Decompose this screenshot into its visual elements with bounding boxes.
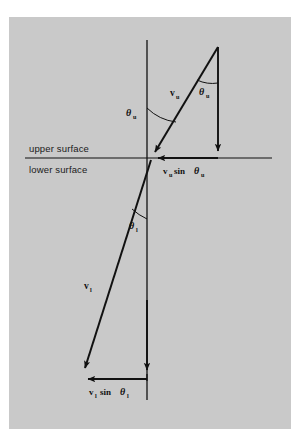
theta-lower-label: θ l bbox=[129, 220, 138, 233]
svg-text:θ: θ bbox=[194, 165, 200, 176]
svg-text:θ: θ bbox=[126, 107, 132, 118]
theta-upper-apex-arc bbox=[197, 80, 218, 83]
svg-text:v: v bbox=[170, 88, 175, 98]
svg-text:l: l bbox=[95, 392, 97, 399]
svg-text:l: l bbox=[90, 286, 92, 293]
svg-text:l: l bbox=[127, 392, 129, 399]
v-upper-label: v u bbox=[170, 88, 180, 100]
theta-upper-apex-label: θ u bbox=[199, 86, 210, 99]
svg-text:v: v bbox=[84, 281, 89, 291]
svg-text:θ: θ bbox=[199, 86, 205, 97]
svg-text:u: u bbox=[133, 113, 137, 120]
svg-text:v: v bbox=[89, 387, 94, 397]
svg-text:u: u bbox=[169, 171, 173, 178]
lower-component-label: v l sin θ l bbox=[89, 386, 129, 399]
vector-diagram: upper surface lower surface v u θ u θ u … bbox=[0, 0, 301, 442]
svg-text:l: l bbox=[136, 226, 138, 233]
theta-upper-origin-arc bbox=[147, 108, 176, 122]
svg-text:u: u bbox=[201, 171, 205, 178]
figure-root: upper surface lower surface v u θ u θ u … bbox=[0, 0, 301, 442]
v-lower-label: v l bbox=[84, 281, 92, 293]
upper-surface-label: upper surface bbox=[29, 143, 89, 154]
upper-component-label: v u sin θ u bbox=[163, 165, 205, 178]
svg-text:θ: θ bbox=[129, 220, 135, 231]
lower-surface-label: lower surface bbox=[29, 164, 87, 175]
svg-text:u: u bbox=[206, 92, 210, 99]
lower-velocity-vector bbox=[85, 160, 151, 368]
upper-velocity-vector bbox=[155, 47, 218, 152]
svg-text:sin: sin bbox=[174, 166, 185, 176]
svg-text:sin: sin bbox=[100, 387, 111, 397]
svg-text:u: u bbox=[176, 93, 180, 100]
theta-upper-origin-label: θ u bbox=[126, 107, 137, 120]
svg-text:v: v bbox=[163, 166, 168, 176]
svg-text:θ: θ bbox=[120, 386, 126, 397]
